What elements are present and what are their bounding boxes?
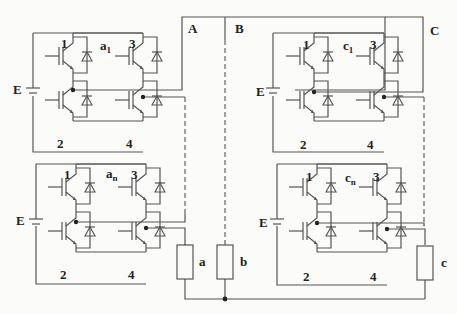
switch-label-an-1: 1 <box>64 167 71 182</box>
cell-label-an: an <box>106 166 118 183</box>
terminal-label-a: A <box>188 21 198 36</box>
switch-label-an-4: 4 <box>128 267 135 282</box>
cell-label-a1: a1 <box>100 38 112 55</box>
cell-label-c1: c1 <box>343 38 354 55</box>
switch-label-a1-2: 2 <box>57 136 64 151</box>
switch-label-cn-2: 2 <box>303 269 310 284</box>
switch-label-a1-1: 1 <box>61 36 68 51</box>
switch-label-c1-3: 3 <box>370 37 377 52</box>
cell-label-cn: cn <box>345 170 356 187</box>
switch-label-c1-2: 2 <box>300 137 307 152</box>
switch-label-c1-4: 4 <box>367 137 374 152</box>
terminal-label-b: B <box>235 21 244 36</box>
load-c <box>417 246 433 299</box>
load-label-a: a <box>199 254 206 269</box>
switch-label-a1-3: 3 <box>129 36 136 51</box>
switch-label-cn-3: 3 <box>373 169 380 184</box>
load-a <box>177 244 425 299</box>
switch-label-an-2: 2 <box>60 267 67 282</box>
switch-label-cn-4: 4 <box>370 269 377 284</box>
switch-label-a1-4: 4 <box>126 136 133 151</box>
circuit-diagram: E 1 2 3 4 a1 E 1 2 3 4 an E 1 2 3 4 c1 E… <box>0 0 457 314</box>
cell-an <box>29 164 185 284</box>
source-label-c1: E <box>256 84 265 99</box>
load-label-b: b <box>240 254 247 269</box>
switch-label-c1-1: 1 <box>303 37 310 52</box>
source-label-cn: E <box>259 215 268 230</box>
switch-label-an-3: 3 <box>131 167 138 182</box>
load-b <box>217 245 233 301</box>
source-label-a1: E <box>13 82 22 97</box>
switch-label-cn-1: 1 <box>306 169 313 184</box>
load-label-c: c <box>441 255 447 270</box>
source-label-an: E <box>16 213 25 228</box>
terminal-label-c: C <box>430 23 439 38</box>
